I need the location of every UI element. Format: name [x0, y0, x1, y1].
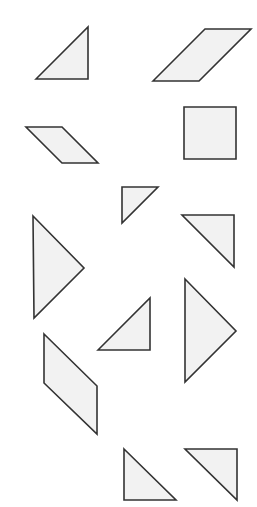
square-shape: [184, 107, 236, 159]
triangle-shape: [98, 298, 150, 350]
triangle-shape: [185, 449, 237, 500]
parallelogram-shape: [44, 334, 97, 434]
parallelogram-shape: [153, 29, 251, 81]
triangle-shape: [33, 216, 84, 318]
triangle-shape: [185, 279, 236, 382]
triangle-shape: [36, 27, 88, 79]
triangle-shape: [122, 187, 158, 223]
parallelogram-shape: [26, 127, 98, 163]
shapes-canvas: [0, 0, 257, 507]
triangle-shape: [124, 449, 176, 500]
triangle-shape: [182, 215, 234, 267]
